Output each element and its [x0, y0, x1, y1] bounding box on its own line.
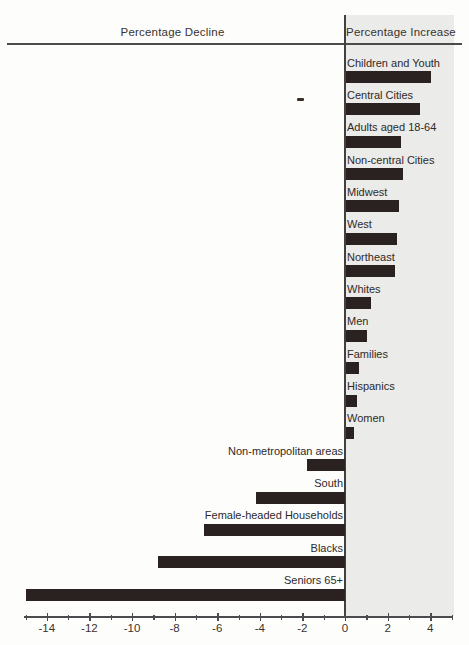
x-axis-tick-label: -14: [38, 622, 55, 634]
header-divider: [7, 43, 462, 45]
bar: [204, 524, 345, 536]
x-axis-tick-label: -6: [212, 622, 222, 634]
bar-label: Central Cities: [347, 89, 413, 102]
bar-label: Midwest: [347, 186, 387, 199]
x-axis-major-tick: [47, 613, 48, 622]
bar: [346, 362, 359, 374]
x-axis-minor-tick: [452, 615, 453, 620]
x-axis-major-tick: [217, 613, 218, 622]
bar-label: Women: [347, 412, 385, 425]
bar: [256, 492, 345, 504]
x-axis-minor-tick: [281, 615, 282, 620]
x-axis-tick-label: -2: [297, 622, 307, 634]
bar-label: Hispanics: [347, 380, 395, 393]
x-axis-minor-tick: [196, 615, 197, 620]
x-axis-major-tick: [430, 613, 431, 622]
x-axis-minor-tick: [409, 615, 410, 620]
decline-zone-title: Percentage Decline: [0, 26, 345, 38]
x-axis-tick-label: -4: [255, 622, 265, 634]
bar-label: Children and Youth: [347, 57, 440, 70]
x-axis-minor-tick: [153, 615, 154, 620]
bar: [26, 589, 346, 601]
x-axis-tick-label: 4: [427, 622, 433, 634]
x-axis-tick-label: 2: [384, 622, 390, 634]
stray-mark-artifact: [297, 98, 304, 101]
x-axis-major-tick: [175, 613, 176, 622]
x-axis-minor-tick: [68, 615, 69, 620]
bar-label: Men: [347, 315, 368, 328]
x-axis-minor-tick: [26, 615, 27, 620]
bar-label: Northeast: [347, 251, 395, 264]
bar-label: Adults aged 18-64: [347, 121, 436, 134]
x-axis-minor-tick: [366, 615, 367, 620]
bar: [346, 168, 404, 180]
bar-label: Non-central Cities: [347, 154, 434, 167]
bar-chart: Percentage Decline Percentage Increase C…: [0, 0, 469, 645]
bar: [346, 330, 367, 342]
bar: [158, 556, 345, 568]
bar: [346, 103, 421, 115]
x-axis-minor-tick: [324, 615, 325, 620]
bar-label: Non-metropolitan areas: [228, 445, 343, 458]
bar: [346, 395, 357, 407]
bar: [307, 459, 345, 471]
increase-zone-title: Percentage Increase: [346, 26, 456, 38]
bar: [346, 427, 355, 439]
bar-label: Families: [347, 348, 388, 361]
x-axis-major-tick: [345, 613, 346, 622]
x-axis-tick-label: -10: [124, 622, 141, 634]
x-axis-tick-label: 0: [342, 622, 348, 634]
bar-label: Seniors 65+: [284, 574, 343, 587]
bar: [346, 265, 395, 277]
x-axis-major-tick: [302, 613, 303, 622]
bar-label: Female-headed Households: [205, 509, 343, 522]
bar: [346, 297, 372, 309]
bar-label: West: [347, 218, 372, 231]
x-axis-major-tick: [132, 613, 133, 622]
bar-label: Whites: [347, 283, 381, 296]
x-axis-tick-label: -12: [81, 622, 98, 634]
bar: [346, 136, 401, 148]
x-axis-tick-label: -8: [169, 622, 179, 634]
x-axis-minor-tick: [239, 615, 240, 620]
bar-label: South: [314, 477, 343, 490]
x-axis-minor-tick: [111, 615, 112, 620]
bar-label: Blacks: [311, 542, 343, 555]
x-axis-major-tick: [89, 613, 90, 622]
bar: [346, 233, 397, 245]
x-axis-major-tick: [388, 613, 389, 622]
bar: [346, 200, 399, 212]
bar: [346, 71, 431, 83]
x-axis-major-tick: [260, 613, 261, 622]
